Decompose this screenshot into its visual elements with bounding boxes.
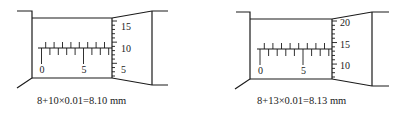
- thimble-label: 5: [121, 64, 126, 75]
- micrometer-left: 0 5 15 10 5 8+10×0.01=8.10 mm: [17, 11, 168, 106]
- sleeve-label-0: 0: [258, 65, 263, 76]
- micrometer-right: 0 5 20 15 10 8+13×0.01=8.13 mm: [235, 12, 389, 106]
- thimble-ticks: [332, 21, 337, 77]
- thimble-top: [112, 11, 168, 18]
- frame-left: [17, 11, 32, 88]
- thimble-bottom: [112, 78, 168, 85]
- sleeve-label-0: 0: [40, 64, 45, 75]
- reading-caption: 8+10×0.01=8.10 mm: [37, 95, 126, 106]
- thimble-label: 15: [340, 39, 350, 50]
- sleeve-ticks: [260, 43, 329, 65]
- thimble-label: 20: [340, 17, 350, 28]
- sleeve-label-5: 5: [82, 64, 87, 75]
- reading-caption: 8+13×0.01=8.13 mm: [257, 95, 346, 106]
- sleeve-label-5: 5: [301, 65, 306, 76]
- thimble-ticks: [112, 21, 117, 76]
- thimble-label: 10: [340, 60, 350, 71]
- thimble-label: 15: [121, 21, 131, 32]
- thimble-bottom: [332, 79, 389, 86]
- micrometer-diagrams: 0 5 15 10 5 8+10×0.01=8.10 mm 0 5 20 15 …: [0, 0, 400, 120]
- thimble-label: 10: [121, 43, 131, 54]
- sleeve-ticks: [42, 42, 109, 64]
- frame-right: [235, 12, 250, 89]
